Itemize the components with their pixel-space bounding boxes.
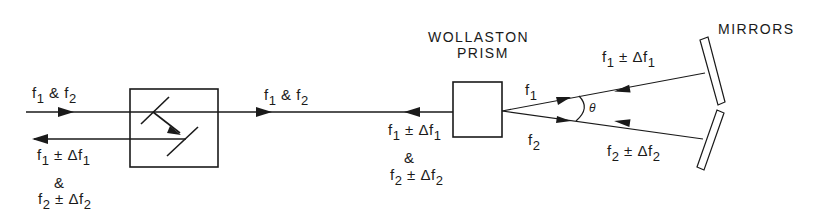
label-input-f1-f2: f1 & f2 (32, 85, 77, 100)
label-beam-f1: f1 (525, 82, 537, 97)
splitter-mirror-1 (141, 97, 169, 124)
label-mid-return-amp: & (404, 150, 415, 165)
label-return-amp: & (54, 175, 65, 190)
wollaston-prism-box (453, 82, 502, 137)
label-mid-return-f2: f2 ± Δf2 (390, 167, 443, 182)
label-mid-return-f1: f1 ± Δf1 (388, 122, 441, 137)
arrow-input (58, 107, 74, 117)
label-theta: θ (589, 102, 596, 114)
label-mirror-return-f2: f2 ± Δf2 (607, 143, 660, 158)
optical-diagram: f1 & f2 f1 ± Δf1 & f2 ± Δf2 f1 & f2 f1 ±… (0, 0, 829, 224)
splitter-internal-ray (153, 112, 180, 133)
diagram-lines (0, 0, 829, 224)
label-beam-f2: f2 (528, 132, 540, 147)
mirror-upper (700, 37, 725, 105)
label-return-f2: f2 ± Δf2 (38, 191, 91, 206)
label-prism: PRISM (457, 46, 509, 60)
label-return-f1: f1 ± Δf1 (37, 147, 90, 162)
label-wollaston: WOLLASTON (428, 30, 529, 44)
label-mirrors: MIRRORS (718, 22, 795, 36)
angle-arc (576, 96, 584, 121)
label-mirror-return-f1: f1 ± Δf1 (602, 49, 655, 64)
mirror-lower (697, 110, 724, 170)
arrowheads (32, 85, 631, 144)
label-mid-forward: f1 & f2 (264, 87, 309, 102)
